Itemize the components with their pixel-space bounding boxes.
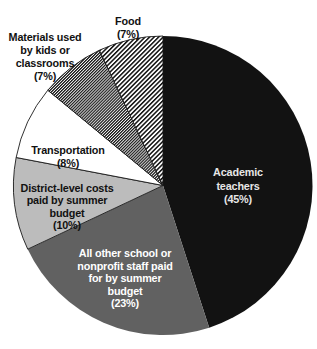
pie-chart: Academicteachers(45%)All other school or… [0, 0, 317, 349]
pie-label-food: Food(7%) [115, 15, 141, 40]
pie-chart-figure: Academicteachers(45%)All other school or… [0, 0, 317, 349]
